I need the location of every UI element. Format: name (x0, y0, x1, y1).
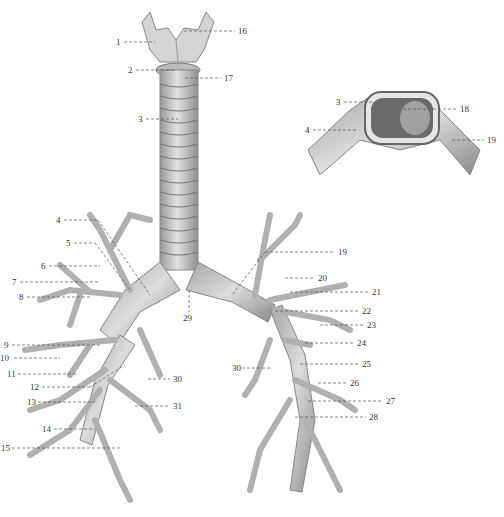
label-3: 3 (138, 114, 143, 124)
label-20: 20 (318, 273, 327, 283)
label-16: 16 (238, 26, 247, 36)
label-23: 23 (367, 320, 376, 330)
label-9: 9 (4, 340, 9, 350)
trachea (160, 70, 198, 270)
label-13: 13 (27, 397, 36, 407)
label-15: 15 (1, 443, 10, 453)
label-12: 12 (30, 382, 39, 392)
label-2: 2 (128, 65, 133, 75)
label-25: 25 (362, 359, 371, 369)
label-28: 28 (369, 412, 378, 422)
label-11: 11 (7, 369, 16, 379)
label-27: 27 (386, 396, 395, 406)
label-4-inset: 4 (305, 125, 310, 135)
larynx (142, 12, 214, 77)
label-10: 10 (0, 353, 9, 363)
label-19-inset: 19 (487, 135, 496, 145)
label-4: 4 (56, 215, 61, 225)
label-14: 14 (42, 424, 51, 434)
label-22: 22 (362, 306, 371, 316)
label-30-right: 30 (232, 363, 241, 373)
label-17: 17 (224, 73, 233, 83)
anatomy-illustration (0, 0, 504, 517)
label-7: 7 (12, 277, 17, 287)
bronchial-tree-figure: 1 2 3 16 17 3 18 4 19 4 5 6 7 8 29 19 20… (0, 0, 504, 517)
label-5: 5 (66, 238, 71, 248)
label-18: 18 (460, 104, 469, 114)
label-31: 31 (173, 401, 182, 411)
label-30-left: 30 (173, 374, 182, 384)
label-29: 29 (183, 313, 192, 323)
label-19: 19 (338, 247, 347, 257)
label-21: 21 (372, 287, 381, 297)
label-24: 24 (357, 338, 366, 348)
label-6: 6 (41, 261, 46, 271)
label-1: 1 (116, 37, 121, 47)
label-3-inset: 3 (336, 97, 341, 107)
label-8: 8 (19, 292, 24, 302)
cross-section-inset (308, 92, 480, 175)
label-26: 26 (350, 378, 359, 388)
